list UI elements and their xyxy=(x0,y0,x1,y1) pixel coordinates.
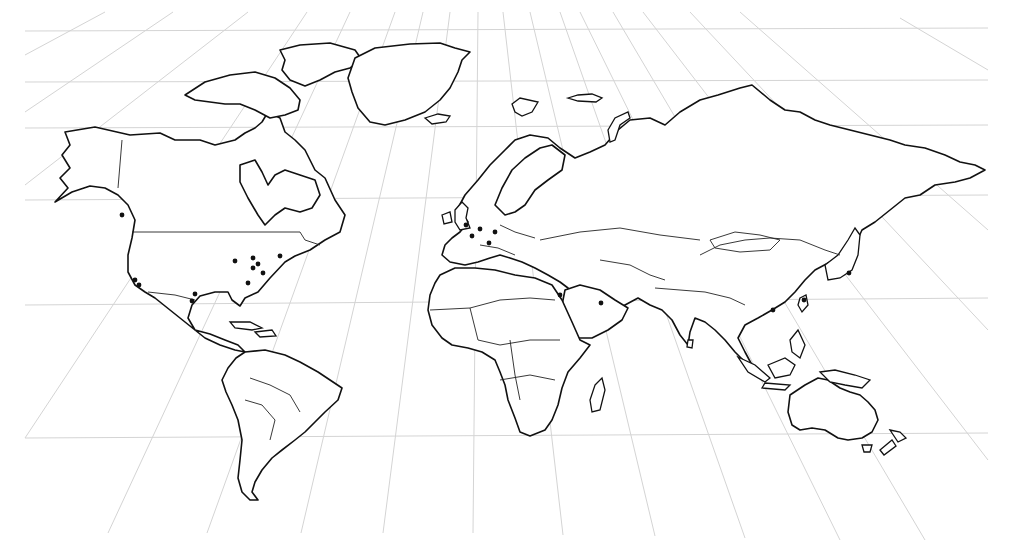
island-borneo xyxy=(768,358,795,378)
island-svalbard xyxy=(512,98,538,116)
dot-frankfurt-marker xyxy=(493,230,498,235)
dot-amsterdam-marker xyxy=(478,227,483,232)
island-ireland xyxy=(442,212,452,224)
dot-london-marker xyxy=(464,223,469,228)
dot-houston-marker xyxy=(190,299,195,304)
dot-paris-marker xyxy=(470,234,475,239)
grid-line-vertical-17 xyxy=(900,18,988,70)
dot-cairo-marker xyxy=(558,293,563,298)
grid-line-vertical-0 xyxy=(25,12,105,55)
grid-line-horizontal-2 xyxy=(25,125,988,128)
grid-line-horizontal-1 xyxy=(25,80,988,82)
dot-pittsburgh-marker xyxy=(251,266,256,271)
dot-riyadh-marker xyxy=(599,301,604,306)
island-taiwan xyxy=(798,295,808,312)
dot-dallas-marker xyxy=(193,292,198,297)
continent-greenland xyxy=(348,43,470,125)
island-iceland xyxy=(425,114,450,124)
dot-la-marker xyxy=(137,283,142,288)
island-franz-josef xyxy=(568,94,602,102)
island-new-zealand-south xyxy=(880,440,896,455)
island-madagascar xyxy=(590,378,605,412)
island-tasmania xyxy=(862,445,872,452)
dot-chicago-marker xyxy=(233,259,238,264)
dot-hongkong-marker xyxy=(771,308,776,313)
island-hispaniola xyxy=(255,330,276,337)
grid-line-vertical-1 xyxy=(25,12,173,112)
island-cuba xyxy=(230,322,262,330)
dot-zurich-marker xyxy=(487,241,492,246)
island-sri-lanka xyxy=(687,340,693,348)
dot-nyc-marker xyxy=(261,271,266,276)
dot-seattle-marker xyxy=(120,213,125,218)
island-philippines xyxy=(790,330,805,358)
map-canvas xyxy=(0,0,1013,556)
dot-boston-marker xyxy=(278,254,283,259)
continent-canadian-arctic xyxy=(185,72,300,118)
dot-cleveland-marker xyxy=(256,262,261,267)
dot-detroit-marker xyxy=(251,256,256,261)
dot-sf-marker xyxy=(133,278,138,283)
dot-atlanta-marker xyxy=(246,281,251,286)
island-sumatra xyxy=(738,357,770,382)
continent-south-america xyxy=(222,350,342,500)
dot-tokyo-marker xyxy=(847,271,852,276)
grid-line-horizontal-0 xyxy=(25,28,988,31)
continent-australia xyxy=(788,378,878,440)
island-java xyxy=(762,383,790,390)
world-map xyxy=(0,0,1013,556)
dot-taipei-marker xyxy=(802,298,807,303)
